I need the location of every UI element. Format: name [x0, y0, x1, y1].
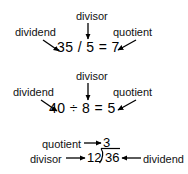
block2-expression: 40 ÷ 8 = 5	[49, 101, 116, 116]
block2-quotient-arrow	[118, 100, 136, 110]
block2-quotient-label: quotient	[113, 86, 152, 98]
block2-dividend-label: dividend	[13, 86, 54, 98]
block1-quotient-label: quotient	[113, 26, 152, 38]
block3-divisor-value: 12	[87, 151, 101, 165]
block3-quotient-value: 3	[103, 136, 110, 150]
block3-dividend-value: 36	[105, 151, 119, 165]
block1-expression: 35 / 5 = 7	[57, 40, 120, 55]
division-terminology-diagram: dividend divisor quotient 35 / 5 = 7 div…	[0, 0, 188, 174]
block1-dividend-label: dividend	[15, 26, 56, 38]
block3-quotient-label: quotient	[42, 138, 81, 150]
block3-dividend-label: dividend	[143, 153, 184, 165]
block3-divisor-label: divisor	[30, 153, 62, 165]
block2-divisor-label: divisor	[76, 70, 108, 82]
block1-divisor-label: divisor	[76, 10, 108, 22]
block1-quotient-arrow	[118, 40, 136, 50]
